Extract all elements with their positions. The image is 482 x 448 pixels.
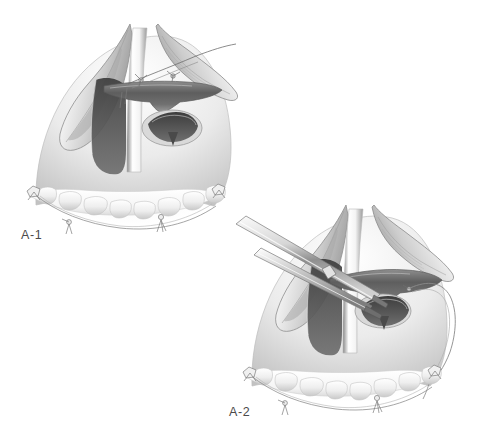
panel-a1-illustration — [27, 24, 238, 234]
figure-plate: A-1 A-2 — [0, 0, 482, 448]
panel-label-a2: A-2 — [229, 405, 250, 419]
a1-stay-suture-anterior-left — [62, 219, 72, 234]
a2-stay-suture-anterior-left — [278, 400, 288, 415]
panel-a2-illustration — [236, 205, 455, 415]
panel-label-a1: A-1 — [21, 228, 42, 242]
illustration-canvas — [0, 0, 482, 448]
